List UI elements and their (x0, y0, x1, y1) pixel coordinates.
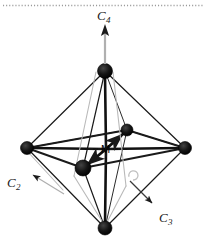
octahedron-diagram-canvas: M C 4 C 3 C 2 (0, 0, 206, 249)
c3-label-subscript: 3 (167, 217, 173, 227)
metal-center-label: M (101, 143, 110, 155)
c2-label-subscript: 2 (16, 182, 21, 192)
c4-label-subscript: 4 (106, 15, 111, 25)
c4-label-base: C (97, 8, 106, 23)
vertex-equatorial-back (121, 124, 133, 136)
c3-axis-label: C 3 (159, 210, 173, 227)
c3-axis-arrow (129, 171, 152, 203)
vertex-apex-top (98, 64, 113, 79)
c3-label-base: C (159, 210, 168, 225)
c2-axis-arrow (33, 175, 64, 194)
c4-axis-label: C 4 (97, 8, 111, 25)
c2-label-base: C (7, 175, 16, 190)
vertex-apex-bottom (98, 221, 112, 235)
vertex-equatorial-left (21, 142, 34, 155)
c4-axis-arrow (101, 24, 109, 64)
c2-axis-label: C 2 (7, 175, 21, 192)
vertex-equatorial-right (179, 142, 192, 155)
octahedron-symmetry-figure: M C 4 C 3 C 2 (0, 0, 206, 249)
c3-rotation-glyph-icon (129, 171, 138, 180)
vertex-equatorial-front (75, 160, 91, 176)
